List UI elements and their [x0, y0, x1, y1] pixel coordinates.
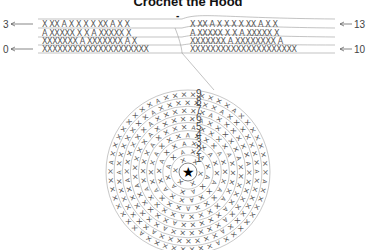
stitch-symbol: ×: [130, 164, 140, 171]
stitch-symbol: A: [190, 188, 197, 196]
stitch-symbol: ×: [236, 163, 246, 171]
stitch-symbol: ×: [198, 218, 207, 228]
arrow-left-icon: [11, 47, 33, 51]
stitch-symbol: ×: [106, 177, 116, 185]
stitch-row-left: X XX A X X X X XX A X X: [42, 20, 130, 29]
stitch-symbol: ×: [147, 169, 156, 176]
stitch-symbol: A: [161, 185, 170, 193]
stitch-symbol: ×: [139, 176, 149, 184]
stitch-symbol: ×: [252, 177, 262, 185]
stitch-symbol: ×: [197, 243, 205, 250]
arrow-right-icon: [340, 47, 352, 51]
stitch-symbol: ×: [170, 116, 179, 126]
start-marker: -: [176, 10, 179, 21]
stitch-symbol: ×: [181, 122, 188, 132]
stitch-symbol: A: [216, 187, 225, 195]
stitch-symbol: A: [254, 169, 261, 174]
stitch-symbol: A: [115, 170, 122, 175]
stitch-row-right: XXXXXXXXXXXXXXXXXXXXX: [190, 45, 298, 54]
connector-curve: [175, 28, 182, 53]
stitch-symbol: ×: [185, 237, 192, 246]
stitch-symbol: A: [235, 155, 243, 162]
stitch-symbol: ×: [260, 160, 270, 168]
stitch-symbol: ×: [228, 170, 237, 177]
stitch-row-left: XXXXXXXXXXXXXXXXXXXXX: [42, 45, 150, 54]
stitch-symbol: ×: [145, 99, 155, 110]
stitch-symbol: ×: [189, 114, 196, 124]
crochet-chart: X XX A X X X X XX A X XX XX A X X X X XX…: [0, 0, 376, 250]
stitch-symbol: A: [164, 163, 172, 170]
stitch-symbol: ×: [116, 186, 126, 195]
stitch-symbol: A: [152, 149, 161, 157]
stitch-symbol: ×: [188, 228, 195, 237]
stitch-symbol: ×: [188, 245, 195, 250]
stitch-symbol: ×: [218, 158, 228, 167]
stitch-symbol: A: [261, 179, 269, 185]
stitch-symbol: ×: [250, 149, 260, 158]
stitch-symbol: ×: [236, 173, 246, 180]
stitch-symbol: A: [107, 159, 115, 165]
stitch-symbol: ×: [227, 159, 237, 167]
stitch-symbol: ×: [180, 90, 187, 99]
stitch-symbol: A: [186, 132, 191, 139]
stitch-symbol: ×: [171, 91, 179, 101]
stitch-symbol: ×: [122, 168, 131, 175]
stitch-row-right: X XX A X X X X XX A X X: [190, 20, 278, 29]
stitch-symbol: ×: [179, 114, 187, 124]
row-label-left: 3: [3, 19, 9, 30]
stitch-symbol: ×: [130, 173, 140, 181]
connector-line: [182, 53, 214, 90]
stitch-symbol: ×: [180, 220, 187, 230]
stitch-symbol: A: [171, 219, 178, 227]
stitch-symbol: ×: [181, 106, 188, 115]
arrow-right-icon: [340, 22, 352, 26]
stitch-symbol: ×: [258, 150, 268, 159]
stitch-symbol: A: [185, 205, 190, 212]
stitch-symbol: A: [204, 174, 212, 181]
stitch-symbol: ×: [138, 168, 147, 175]
stitch-symbol: ×: [221, 234, 231, 245]
stitch-symbol: ×: [188, 212, 195, 222]
stitch-symbol: ×: [189, 220, 197, 230]
stitch-symbol: ×: [179, 228, 186, 238]
stitch-symbol: ×: [184, 98, 191, 107]
stitch-symbol: ×: [212, 170, 221, 177]
stitch-symbol: ×: [196, 170, 206, 178]
stitch-symbol: ×: [206, 93, 215, 104]
stitch-symbol: ×: [106, 168, 115, 175]
stitch-symbol: A: [133, 182, 141, 189]
stitch-symbol: ×: [147, 177, 157, 186]
star-icon: ★: [182, 164, 195, 180]
stitch-symbol: ×: [220, 168, 229, 175]
row-label-left: 0: [3, 44, 9, 55]
row-label-right: 10: [354, 44, 366, 55]
stitch-symbol: ×: [155, 167, 164, 174]
stitch-symbol: A: [207, 151, 216, 159]
stitch-symbol: ×: [171, 166, 181, 174]
arrow-left-icon: [11, 22, 33, 26]
row-label-right: 13: [354, 19, 366, 30]
stitch-symbol: A: [180, 148, 187, 156]
stitch-symbol: ×: [261, 169, 270, 176]
stitch-symbol: ×: [245, 169, 254, 176]
stitch-symbol: ×: [107, 185, 117, 194]
round-number: 9: [196, 88, 202, 99]
stitch-symbol: ×: [162, 92, 171, 103]
stitch-symbol: ×: [114, 160, 124, 168]
stitch-symbol: A: [182, 140, 188, 148]
stitch-symbol: A: [179, 213, 185, 221]
stitch-symbol: ×: [179, 245, 186, 250]
stitch-symbol: A: [188, 197, 194, 205]
